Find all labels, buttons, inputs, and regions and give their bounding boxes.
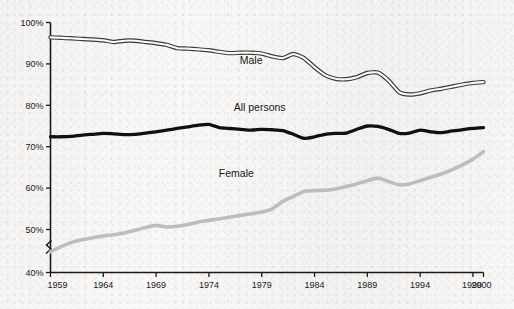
x-axis-tick-label: 1989 — [357, 280, 377, 290]
x-axis-tick-label: 1979 — [252, 280, 272, 290]
y-axis-tick-label: 100% — [20, 18, 43, 28]
y-axis-tick-label: 60% — [25, 183, 43, 193]
x-axis-tick-label: 2000 — [471, 280, 491, 290]
series-group — [51, 37, 484, 251]
male-label: Male — [240, 54, 263, 66]
series-line-outer — [51, 37, 484, 94]
series-line-female — [51, 152, 484, 252]
x-axis-tick-label: 1964 — [93, 280, 113, 290]
x-axis-tick-label: 1959 — [48, 280, 68, 290]
y-axis-tick-label: 80% — [25, 101, 43, 111]
line-chart: 40%50%60%70%80%90%100%195919641969197419… — [0, 0, 514, 309]
series-line-all-persons — [51, 124, 484, 138]
y-axis-tick-label: 40% — [25, 268, 43, 278]
y-axis-tick-label: 90% — [25, 59, 43, 69]
series-annotations: MaleAll personsFemale — [219, 54, 286, 179]
all-persons-label: All persons — [234, 101, 286, 113]
chart-canvas: 40%50%60%70%80%90%100%195919641969197419… — [0, 0, 514, 309]
y-axis-tick-label: 70% — [25, 142, 43, 152]
x-axis-tick-label: 1984 — [305, 280, 325, 290]
y-axis-tick-label: 50% — [25, 225, 43, 235]
x-axis-tick-label: 1969 — [146, 280, 166, 290]
series-line-male — [51, 37, 484, 94]
x-axis-tick-label: 1994 — [410, 280, 430, 290]
series-line-inner — [51, 37, 484, 94]
x-axis-tick-label: 1974 — [199, 280, 219, 290]
female-label: Female — [219, 167, 254, 179]
